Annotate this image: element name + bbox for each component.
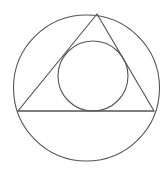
geometry-diagram bbox=[0, 0, 168, 173]
outer-circle bbox=[14, 15, 160, 161]
inscribed-triangle bbox=[18, 14, 154, 111]
inner-circle bbox=[58, 41, 128, 111]
